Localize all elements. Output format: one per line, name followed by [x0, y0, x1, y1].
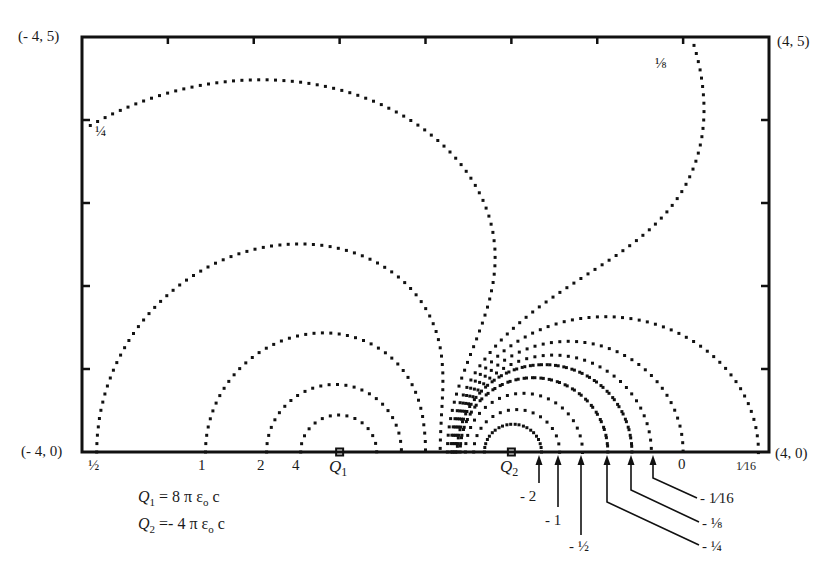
- contour-dot: [552, 296, 555, 299]
- contour-dot: [204, 442, 207, 445]
- contour-dot: [619, 380, 622, 383]
- contour-dot: [492, 281, 495, 284]
- contour-dot: [575, 356, 578, 359]
- contour-dot: [478, 392, 481, 395]
- contour-dot: [468, 405, 471, 408]
- contour-dot: [464, 442, 467, 445]
- contour-dot: [752, 418, 755, 421]
- contour-dot: [395, 424, 398, 427]
- equipotential-line: [454, 354, 653, 454]
- contour-dot: [377, 347, 380, 350]
- contour-dot: [555, 323, 558, 326]
- contour-dot: [494, 345, 497, 348]
- contour-dot: [314, 422, 317, 425]
- contour-dot: [676, 197, 679, 200]
- contour-dot: [428, 315, 431, 318]
- arrowhead-icon: [536, 455, 543, 465]
- contour-dot: [621, 316, 624, 319]
- contour-dot: [407, 376, 410, 379]
- contour-dot: [266, 78, 269, 81]
- contour-dot: [547, 397, 550, 400]
- contour-dot: [478, 412, 481, 415]
- contour-dot: [524, 336, 527, 339]
- contour-dot: [439, 447, 442, 450]
- contour-dot: [369, 258, 372, 261]
- contour-dot: [245, 250, 248, 253]
- contour-dot: [313, 332, 316, 335]
- contour-dot: [499, 384, 502, 387]
- contour-dot: [623, 354, 626, 357]
- contour-dot: [111, 112, 114, 115]
- contour-dot: [694, 160, 697, 163]
- contour-dot: [502, 367, 505, 370]
- contour-dot: [625, 386, 628, 389]
- contour-dot: [591, 362, 594, 365]
- contour-dot: [215, 402, 218, 405]
- contour-dot: [673, 409, 676, 412]
- contour-dot: [532, 431, 535, 434]
- contour-dot: [490, 369, 493, 372]
- contour-dot: [447, 434, 450, 437]
- contour-dot: [123, 346, 126, 349]
- contour-dot: [367, 427, 370, 430]
- contour-dot: [109, 377, 112, 380]
- contour-dot: [556, 380, 559, 383]
- contour-dot: [337, 247, 340, 250]
- contour-dot: [531, 311, 534, 314]
- contour-dot: [491, 388, 494, 391]
- contour-dot: [270, 245, 273, 248]
- contour-dot: [596, 315, 599, 318]
- contour-dot: [464, 402, 467, 405]
- contour-dot: [258, 351, 261, 354]
- contour-dot: [593, 379, 596, 382]
- contour-dot: [606, 370, 609, 373]
- contour-dot: [300, 442, 303, 445]
- contour-dot: [328, 383, 331, 386]
- contour-dot: [578, 371, 581, 374]
- contour-dot: [557, 442, 560, 445]
- contour-dot: [499, 411, 502, 414]
- contour-dot: [457, 434, 460, 437]
- contour-dot: [630, 392, 633, 395]
- contour-dot: [478, 330, 481, 333]
- contour-dot: [364, 97, 367, 100]
- contour-dot: [743, 395, 746, 398]
- contour-dot: [699, 345, 702, 348]
- contour-dot: [599, 418, 602, 421]
- contour-dot: [498, 376, 501, 379]
- contour-dot: [635, 239, 638, 242]
- contour-dot: [555, 434, 558, 437]
- contour-dot: [757, 451, 760, 454]
- contour-dot: [199, 270, 202, 273]
- charge-label-q1: Q1: [329, 458, 347, 478]
- contour-dot: [376, 262, 379, 265]
- contour-dot: [534, 345, 537, 348]
- contour-dot: [270, 426, 273, 429]
- contour-dot: [606, 442, 609, 445]
- contour-dot: [712, 355, 715, 358]
- contour-dot: [104, 116, 107, 119]
- contour-dot: [439, 439, 442, 442]
- contour-dot: [262, 246, 265, 249]
- contour-dot: [506, 381, 509, 384]
- contour-dot: [402, 369, 405, 372]
- contour-dot: [550, 341, 553, 344]
- contour-dot: [548, 363, 551, 366]
- contour-dot: [483, 451, 486, 454]
- contour-dot: [588, 316, 591, 319]
- contour-dot: [681, 441, 684, 444]
- contour-dot: [459, 426, 462, 429]
- contour-dot: [224, 80, 227, 83]
- contour-dot: [509, 423, 512, 426]
- contour-dot: [402, 115, 405, 118]
- contour-dot: [550, 354, 553, 357]
- contour-dot: [542, 354, 545, 357]
- contour-dot: [422, 423, 425, 426]
- equipotential-line: [89, 78, 497, 453]
- contour-dot: [656, 380, 659, 383]
- contour-dot: [750, 410, 753, 413]
- contour-dot: [283, 405, 286, 408]
- contour-dot: [192, 274, 195, 277]
- contour-dot: [257, 78, 260, 81]
- contour-dot: [374, 442, 377, 445]
